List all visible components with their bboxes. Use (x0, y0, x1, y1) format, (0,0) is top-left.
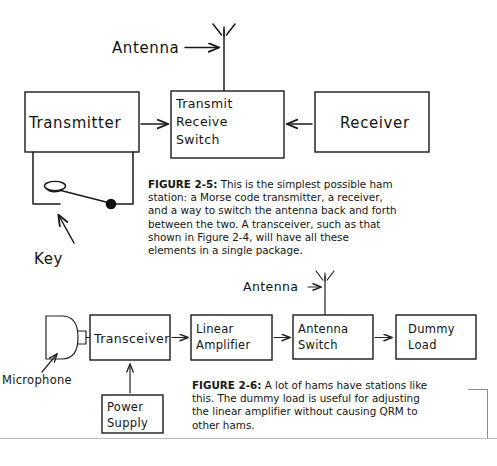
block-amplifier-label-line1: Linear (196, 322, 234, 336)
key-label: Key (34, 250, 63, 268)
block-antenna-switch-label-line2: Switch (298, 338, 338, 352)
block-linear-amplifier: Linear Amplifier (191, 315, 272, 360)
block-power-supply-label-line2: Supply (107, 416, 148, 430)
antenna-lower-icon (316, 271, 334, 315)
block-transmitter: Transmitter (25, 92, 139, 152)
figure-page: Antenna Transmitter Transmit Receive Swi… (0, 0, 497, 466)
block-transmit-receive-switch: Transmit Receive Switch (171, 91, 284, 158)
block-transceiver-label: Transceiver (93, 331, 170, 346)
figure-25-caption-id: FIGURE 2-5: (148, 178, 217, 190)
antenna-lower-label: Antenna (243, 279, 298, 294)
block-dummy-load-label-line1: Dummy (408, 322, 455, 336)
antenna-upper-label: Antenna (112, 39, 179, 57)
key-pivot-dot (106, 199, 117, 210)
block-amplifier-label-line2: Amplifier (196, 338, 251, 352)
antenna-upper-icon (213, 24, 235, 92)
block-trswitch-label-line3: Switch (176, 132, 220, 147)
block-dummy-load-label-line2: Load (408, 338, 437, 352)
page-right-rule (487, 389, 488, 438)
page-bottom-rule (0, 438, 497, 439)
block-trswitch-label-line2: Receive (176, 114, 228, 129)
block-trswitch-label-line1: Transmit (175, 96, 233, 111)
microphone-pointer (42, 354, 57, 372)
block-power-supply-label-line1: Power (107, 400, 143, 414)
figure-26-caption: FIGURE 2-6: A lot of hams have stations … (192, 379, 432, 432)
key-circuit (33, 152, 133, 209)
key-pointer (59, 215, 75, 243)
page-corner-rule (468, 389, 488, 390)
block-transmitter-label: Transmitter (28, 114, 121, 132)
block-receiver: Receiver (315, 92, 429, 152)
block-antenna-switch: Antenna Switch (293, 315, 373, 359)
block-antenna-switch-label-line1: Antenna (298, 322, 348, 336)
block-transceiver: Transceiver (90, 315, 170, 360)
figure-26-caption-id: FIGURE 2-6: (192, 379, 261, 391)
figure-25-caption: FIGURE 2-5: This is the simplest possibl… (148, 178, 400, 257)
microphone-icon (46, 316, 90, 359)
microphone-label: Microphone (2, 373, 72, 387)
block-power-supply: Power Supply (102, 395, 163, 433)
block-receiver-label: Receiver (340, 114, 410, 132)
block-dummy-load: Dummy Load (396, 315, 476, 359)
